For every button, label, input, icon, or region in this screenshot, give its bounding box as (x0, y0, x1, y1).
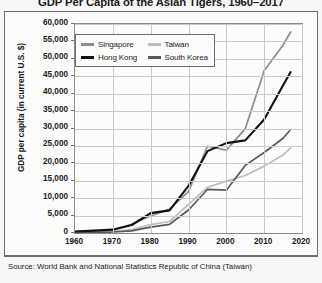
source-note: Source: World Bank and National Statisti… (8, 262, 252, 271)
legend-swatch-south-korea (148, 56, 161, 59)
x-axis-tick-label: 2000 (205, 237, 245, 246)
legend-label-hong-kong: Hong Kong (98, 53, 137, 62)
legend-item-taiwan: Taiwan (148, 40, 215, 49)
y-axis-tick-label: 55,000 (10, 35, 68, 44)
x-axis-tick-label: 2010 (243, 237, 283, 246)
x-axis-tick-label: 1970 (92, 237, 132, 246)
gridline-vertical (226, 24, 227, 233)
x-axis-tick-label: 1990 (168, 237, 208, 246)
series-line-taiwan (75, 148, 291, 232)
legend-label-taiwan: Taiwan (165, 40, 189, 49)
chart-title: GDP Per Capita of the Asian Tigers, 1960… (0, 0, 322, 8)
y-axis-tick-label: 15,000 (10, 174, 68, 183)
legend-label-south-korea: South Korea (165, 53, 208, 62)
y-axis-tick-label: 35,000 (10, 105, 68, 114)
y-axis-tick-label: 40,000 (10, 87, 68, 96)
y-axis-tick-label: 60,000 (10, 18, 68, 27)
chart-figure: GDP Per Capita of the Asian Tigers, 1960… (0, 0, 322, 283)
legend-label-singapore: Singapore (98, 40, 134, 49)
y-axis-tick-label: 10,000 (10, 192, 68, 201)
y-axis-tick-label: 0 (10, 227, 68, 236)
gridline-vertical (264, 24, 265, 233)
chart-legend: Singapore Taiwan Hong Kong South Korea (75, 34, 215, 67)
legend-row-2: Hong Kong South Korea (81, 51, 214, 64)
source-divider (4, 256, 318, 257)
legend-swatch-hong-kong (81, 56, 94, 59)
y-axis-tick-label: 45,000 (10, 70, 68, 79)
gridline-vertical (302, 24, 303, 233)
x-axis-tick-label: 2020 (281, 237, 321, 246)
y-axis-tick-label: 25,000 (10, 139, 68, 148)
y-axis-tick-label: 50,000 (10, 52, 68, 61)
legend-item-hong-kong: Hong Kong (81, 53, 148, 62)
legend-item-south-korea: South Korea (148, 53, 215, 62)
legend-row-1: Singapore Taiwan (81, 38, 214, 51)
chart-card: GDP per capita (in current U.S. $) 05,00… (4, 11, 318, 256)
x-axis-tick-label: 1980 (130, 237, 170, 246)
y-axis-tick-label: 5,000 (10, 209, 68, 218)
legend-swatch-taiwan (148, 43, 161, 46)
series-line-hong-kong (75, 72, 291, 231)
legend-item-singapore: Singapore (81, 40, 148, 49)
y-axis-tick-label: 20,000 (10, 157, 68, 166)
y-axis-tick-label: 30,000 (10, 122, 68, 131)
x-axis-tick-label: 1960 (54, 237, 94, 246)
legend-swatch-singapore (81, 43, 94, 46)
